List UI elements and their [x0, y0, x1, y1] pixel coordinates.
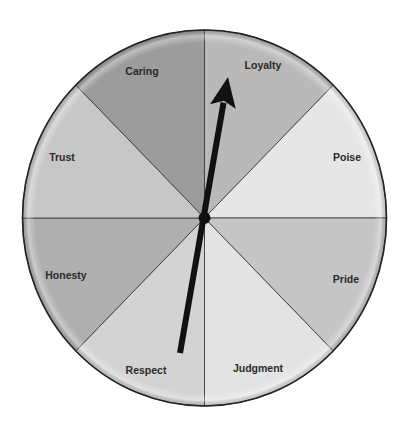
- segment-label-loyalty: Loyalty: [245, 59, 282, 71]
- segment-label-poise: Poise: [333, 151, 361, 163]
- spinner-wheel: LoyaltyPoisePrideJudgmentRespectHonestyT…: [0, 0, 409, 432]
- segment-label-trust: Trust: [49, 151, 75, 163]
- segment-label-judgment: Judgment: [233, 362, 284, 374]
- segment-label-pride: Pride: [333, 273, 359, 285]
- segment-label-respect: Respect: [126, 364, 167, 376]
- wheel-hub: [199, 212, 211, 224]
- segment-label-caring: Caring: [125, 65, 158, 77]
- segment-label-honesty: Honesty: [45, 269, 87, 281]
